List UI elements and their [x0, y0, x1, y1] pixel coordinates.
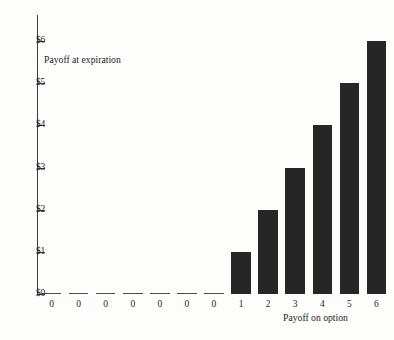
bar	[258, 210, 277, 294]
bar	[285, 168, 304, 295]
bar	[96, 293, 115, 295]
x-axis-tick-label: 0	[65, 300, 92, 310]
bar	[367, 41, 386, 294]
payoff-bar-chart: $0$1$2$3$4$5$6 0000000123456 Payoff at e…	[0, 0, 394, 340]
x-axis-tick-label: 5	[336, 300, 363, 310]
x-axis-tick-label: 4	[309, 300, 336, 310]
x-axis-tick-label: 0	[146, 300, 173, 310]
bar-slot	[204, 15, 223, 294]
bar-slot	[285, 15, 304, 294]
x-axis-tick-label: 0	[38, 300, 65, 310]
bar	[204, 293, 223, 295]
bar-slot	[177, 15, 196, 294]
x-axis-title: Payoff on option	[283, 313, 348, 323]
bar-slot	[150, 15, 169, 294]
bar	[42, 293, 61, 295]
x-axis-tick-label: 0	[92, 300, 119, 310]
x-axis-tick-label: 0	[200, 300, 227, 310]
bar-slot	[340, 15, 359, 294]
x-axis-tick-label: 3	[282, 300, 309, 310]
bar	[123, 293, 142, 295]
x-axis-tick-label: 0	[119, 300, 146, 310]
payoff-at-expiration-annotation: Payoff at expiration	[44, 55, 121, 65]
bar	[313, 125, 332, 294]
bar-slot	[258, 15, 277, 294]
x-axis-tick-label: 0	[173, 300, 200, 310]
bar-slot	[123, 15, 142, 294]
bar	[340, 83, 359, 294]
bar	[150, 293, 169, 295]
bar	[177, 293, 196, 295]
x-axis-tick-label: 6	[363, 300, 390, 310]
bar	[69, 293, 88, 295]
bar-slot	[313, 15, 332, 294]
x-axis-tick-label: 2	[255, 300, 282, 310]
bar-slot	[231, 15, 250, 294]
bar	[231, 252, 250, 294]
bar-slot	[367, 15, 386, 294]
x-axis-tick-label: 1	[228, 300, 255, 310]
